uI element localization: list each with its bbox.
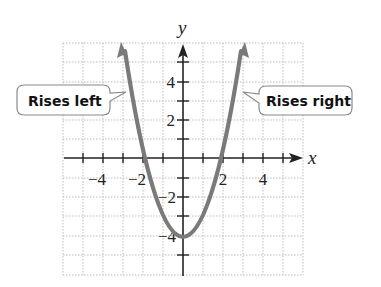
callout-left-text: Rises left — [28, 93, 102, 109]
graph-canvas: −4 −2 2 4 4 2 −2 −4 x y Rises left Rises… — [0, 0, 381, 287]
y-axis — [177, 44, 189, 276]
callout-rises-right: Rises right — [243, 86, 352, 115]
x-tick-label: −4 — [88, 170, 107, 189]
y-axis-label: y — [176, 17, 187, 38]
callout-rises-left: Rises left — [17, 85, 126, 115]
y-tick-label: 2 — [167, 111, 176, 130]
y-tick-label: 4 — [167, 73, 176, 92]
x-tick-label: −2 — [128, 170, 146, 189]
x-axis-label: x — [307, 147, 317, 168]
x-tick-label: 4 — [259, 170, 268, 189]
callout-right-text: Rises right — [266, 93, 351, 109]
x-tick-label: 2 — [219, 170, 228, 189]
